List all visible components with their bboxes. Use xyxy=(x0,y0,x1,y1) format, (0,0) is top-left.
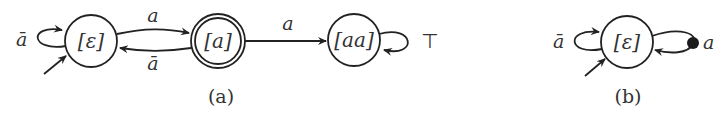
state-label: [ε] xyxy=(78,29,105,53)
initial-arrow-a xyxy=(44,56,66,74)
state-label: [a] xyxy=(204,29,232,53)
edge-eps-to-a xyxy=(117,29,189,34)
transition-label: a xyxy=(282,12,293,34)
state-a: [a] xyxy=(191,14,245,68)
state-label: [ε] xyxy=(614,30,641,54)
edge-a-to-eps xyxy=(120,48,191,51)
automata-figure: [ε] ā a ā [a] a [aa] ⊤ (a) xyxy=(0,0,723,123)
state-epsilon-a: [ε] xyxy=(65,15,117,67)
transition-label: ā xyxy=(147,52,158,74)
state-epsilon-b: [ε] xyxy=(601,16,653,68)
transition-label: a xyxy=(703,31,714,53)
filled-dot-marker xyxy=(687,37,699,49)
caption-a: (a) xyxy=(208,85,234,107)
transition-label: ā xyxy=(553,30,564,52)
figure-b: [ε] ā a (b) xyxy=(553,16,714,107)
transition-label: ⊤ xyxy=(421,29,438,53)
figure-a: [ε] ā a ā [a] a [aa] ⊤ (a) xyxy=(16,4,438,107)
state-aa: [aa] xyxy=(328,14,380,66)
self-loop-top xyxy=(379,32,408,51)
self-loop-abar-b xyxy=(575,32,602,51)
caption-b: (b) xyxy=(615,85,642,107)
transition-label: a xyxy=(147,4,158,26)
initial-arrow-b xyxy=(585,59,605,76)
state-label: [aa] xyxy=(334,28,374,52)
transition-label: ā xyxy=(16,28,27,50)
self-loop-abar-a xyxy=(38,29,66,47)
